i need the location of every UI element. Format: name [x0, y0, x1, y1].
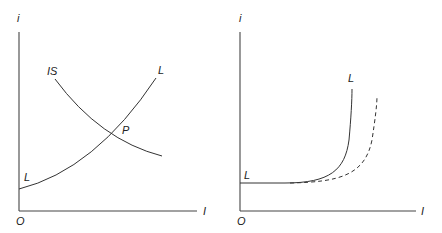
- right-ll-top-label: L: [348, 72, 354, 84]
- right-ll-curve: [240, 89, 352, 183]
- left-x-axis-label: I: [203, 205, 206, 217]
- left-panel: i O I IS L L P: [16, 12, 206, 227]
- right-ll-shifted-dashed-curve: [290, 96, 377, 183]
- right-y-axis-label: i: [239, 12, 242, 24]
- left-ll-curve: [19, 78, 156, 189]
- right-x-axis-label: I: [421, 205, 424, 217]
- diagram-canvas: i O I IS L L P i O I L L: [0, 0, 442, 233]
- intersection-p-label: P: [122, 124, 130, 136]
- left-ll-bottom-label: L: [24, 171, 30, 183]
- left-ll-top-label: L: [158, 64, 164, 76]
- left-y-axis-label: i: [17, 12, 20, 24]
- left-origin-label: O: [16, 215, 25, 227]
- right-panel: i O I L L: [237, 12, 424, 227]
- right-ll-bottom-label: L: [244, 169, 250, 181]
- left-is-curve: [55, 79, 162, 156]
- is-curve-label: IS: [47, 65, 58, 77]
- right-origin-label: O: [237, 215, 246, 227]
